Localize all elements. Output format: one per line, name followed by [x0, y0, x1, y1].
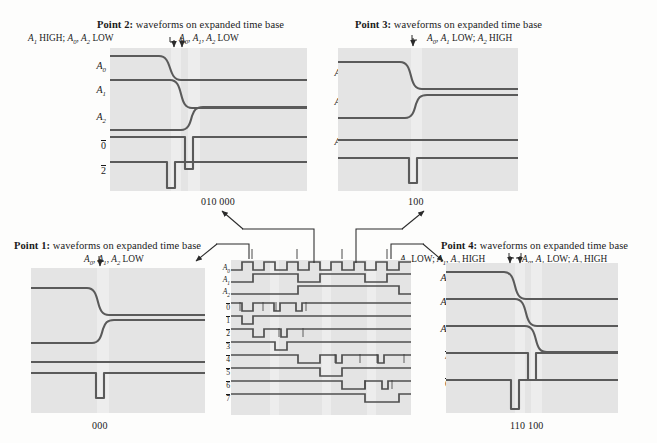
- leader-center-to-point1: [216, 244, 249, 259]
- leader-center-to-point3: [356, 229, 403, 263]
- point1-panel-bg: [31, 268, 205, 413]
- center-band-c: [367, 260, 376, 415]
- leader-arrow-point2: [222, 211, 243, 229]
- center-band-b: [322, 260, 331, 415]
- leader-arrow-point3: [402, 211, 424, 229]
- waveform-canvas: [0, 0, 657, 443]
- decoder-timing-figure: Point 2: waveforms on expanded time base…: [0, 0, 657, 443]
- point2-panel-bg: [110, 48, 307, 191]
- leader-arrow-point4: [423, 244, 443, 261]
- leader-center-to-point4: [391, 244, 424, 259]
- center-band-a: [270, 260, 279, 415]
- leader-arrow-point1: [196, 244, 217, 261]
- point3-panel-bg: [338, 48, 518, 191]
- leader-center-to-point2: [242, 229, 314, 263]
